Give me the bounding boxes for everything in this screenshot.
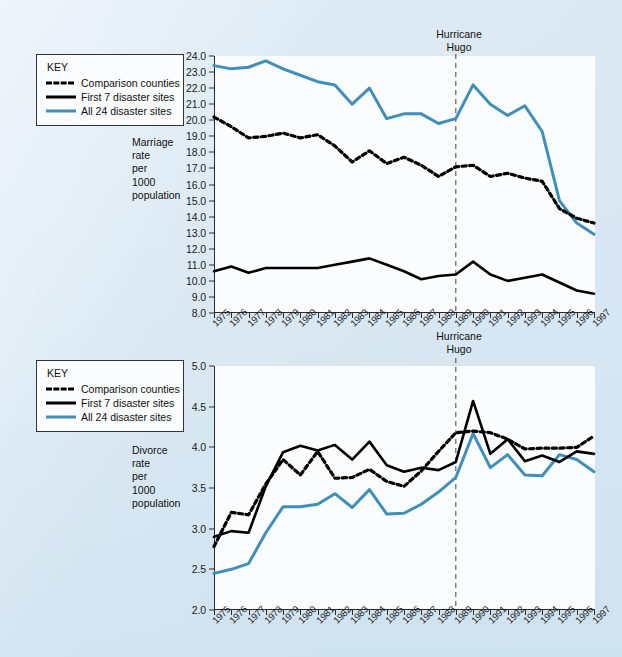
series-line <box>214 401 594 537</box>
series-line <box>214 431 594 546</box>
series-overlay <box>0 330 622 657</box>
divorce-rate-chart: Hurricane Hugo KEY Comparison counties F… <box>0 330 622 657</box>
marriage-rate-chart: Hurricane Hugo KEY Comparison counties F… <box>0 0 622 345</box>
divorce-plot-wrapper: 2.02.53.03.54.04.55.01975197619771978197… <box>0 330 622 657</box>
marriage-plot-wrapper: 8.09.010.011.012.013.014.015.016.017.018… <box>0 0 622 345</box>
series-line <box>214 61 594 234</box>
series-line <box>214 117 594 223</box>
series-line <box>214 434 594 574</box>
series-line <box>214 258 594 293</box>
series-overlay <box>0 0 622 345</box>
